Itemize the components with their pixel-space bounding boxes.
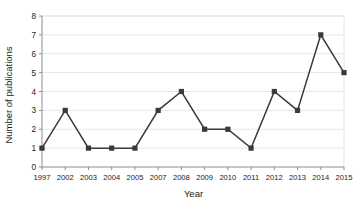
- x-tick-label: 2009: [196, 173, 213, 182]
- data-point-marker: [156, 108, 161, 113]
- y-tick-label: 8: [31, 12, 36, 21]
- data-point-marker: [109, 146, 114, 151]
- x-tick-label: 2007: [150, 173, 167, 182]
- data-point-marker: [86, 146, 91, 151]
- y-tick-label: 7: [31, 31, 36, 40]
- data-point-marker: [132, 146, 137, 151]
- data-point-marker: [295, 108, 300, 113]
- y-tick-label: 2: [31, 125, 36, 134]
- data-point-marker: [202, 127, 207, 132]
- x-tick-label: 2014: [312, 173, 329, 182]
- data-point-marker: [318, 32, 323, 37]
- data-point-marker: [225, 127, 230, 132]
- x-tick-label: 1997: [34, 173, 51, 182]
- data-point-marker: [63, 108, 68, 113]
- plot-area: 012345678 199720022003200420052007200820…: [0, 0, 361, 207]
- y-tick-label: 4: [31, 88, 36, 97]
- data-point-marker: [341, 70, 346, 75]
- publications-line-chart: Number of publications Year 012345678 19…: [0, 0, 361, 207]
- data-point-marker: [248, 146, 253, 151]
- y-tick-label: 0: [31, 163, 36, 172]
- x-tick-label: 2008: [173, 173, 190, 182]
- data-point-marker: [39, 146, 44, 151]
- x-tick-label: 2012: [266, 173, 283, 182]
- data-point-marker: [272, 89, 277, 94]
- x-tick-label: 2011: [243, 173, 259, 182]
- y-tick-label: 5: [31, 69, 36, 78]
- x-axis-tick-labels: 1997200220032004200520072008200920102011…: [34, 173, 353, 182]
- x-tick-label: 2010: [219, 173, 236, 182]
- y-tick-label: 3: [31, 106, 36, 115]
- data-point-marker: [179, 89, 184, 94]
- gridlines: [42, 16, 344, 148]
- x-tick-label: 2005: [126, 173, 143, 182]
- x-tick-label: 2003: [80, 173, 97, 182]
- y-axis-tick-labels: 012345678: [31, 12, 36, 172]
- x-tick-label: 2002: [57, 173, 74, 182]
- y-tick-label: 6: [31, 50, 36, 59]
- x-tick-label: 2004: [103, 173, 120, 182]
- y-tick-label: 1: [31, 144, 36, 153]
- x-tick-label: 2013: [289, 173, 306, 182]
- x-tick-label: 2015: [336, 173, 353, 182]
